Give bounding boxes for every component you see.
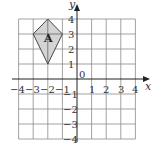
x-tick-2: 2 [103,84,109,95]
x-tick-3: 3 [118,84,124,95]
x-tick-neg2: −2 [40,84,55,95]
x-tick-1: 1 [89,84,95,95]
x-tick-neg3: −3 [25,84,40,95]
shape-label-a: A [43,32,53,45]
coordinate-grid-diagram: A x y −4 −3 −2 −1 0 1 2 3 4 4 3 2 1 −1 −… [0,0,156,152]
kite-shape-a: A [33,19,62,64]
diagram-canvas: A x y −4 −3 −2 −1 0 1 2 3 4 4 3 2 1 −1 −… [0,0,156,152]
y-tick-neg4: −4 [63,134,78,145]
y-tick-2: 2 [68,44,74,55]
y-tick-neg3: −3 [63,119,78,130]
y-tick-1: 1 [68,59,74,70]
y-tick-neg1: −1 [63,89,78,100]
y-axis-label: y [68,0,76,11]
x-tick-4: 4 [132,84,138,95]
y-tick-3: 3 [68,29,74,40]
y-tick-neg2: −2 [63,104,78,115]
y-tick-4: 4 [68,14,74,25]
x-axis-label: x [145,80,152,93]
origin-label: 0 [79,69,85,80]
x-tick-neg4: −4 [10,84,25,95]
